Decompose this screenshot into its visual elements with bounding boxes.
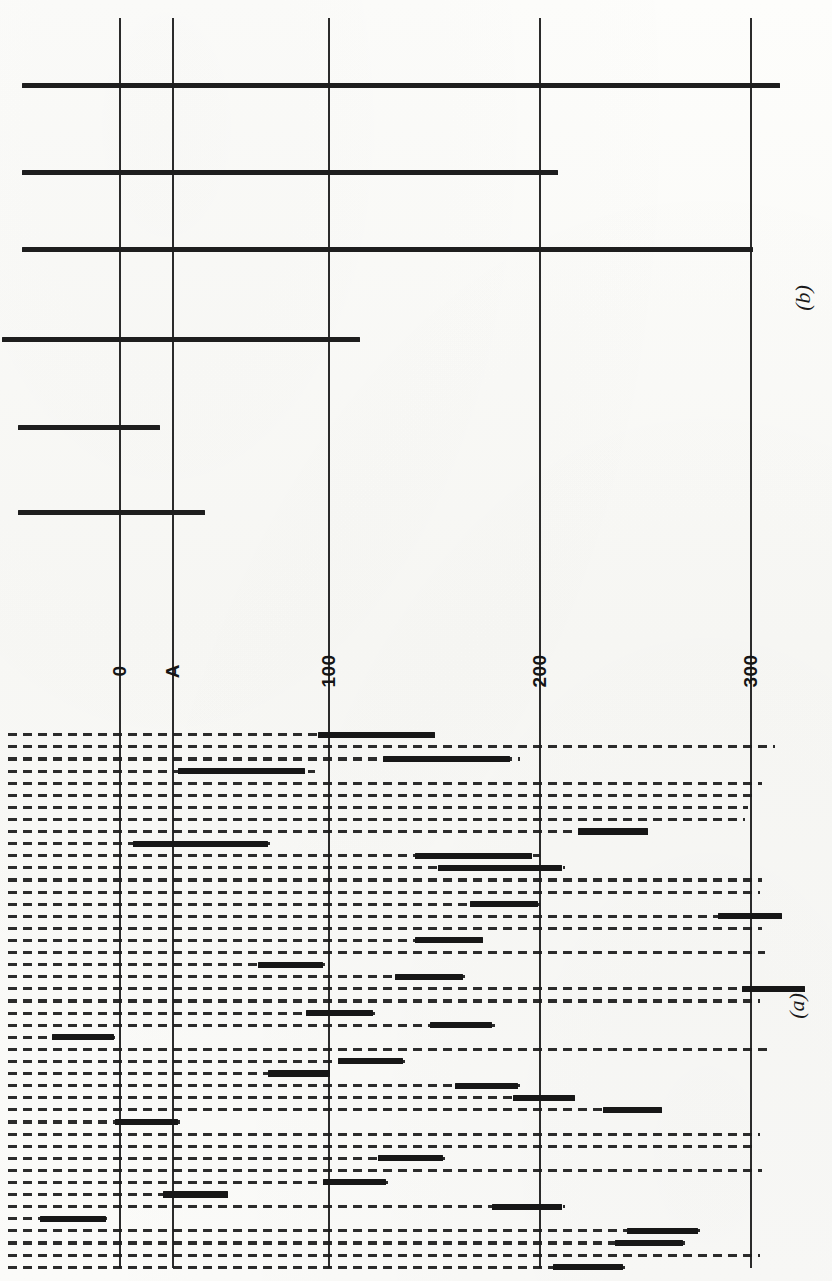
panel-a-dashed-range [8,1205,565,1208]
panel-a-dashed-range [8,1096,578,1099]
panel-a-interval-bar [415,937,483,943]
panel-caption-b: (b) [790,285,816,311]
panel-a-dashed-range [8,878,762,881]
tick-label-300: 300 [740,643,762,699]
tick-label-100: 100 [318,643,340,699]
panel-a-interval-bar [578,828,648,834]
panel-a-interval-bar [627,1228,698,1234]
panel-a-interval-bar [383,756,510,762]
tick-label-a: A [162,643,184,699]
tick-label-0: 0 [109,643,131,699]
panel-a-interval-bar [258,962,323,968]
panel-a-interval-bar [318,732,435,738]
panel-b-bar [18,510,205,515]
panel-a-interval-bar [603,1107,662,1113]
panel-a-interval-bar [378,1155,443,1161]
panel-a-dashed-range [8,1169,762,1172]
panel-b-bar [18,425,160,430]
panel-a-dashed-range [8,1266,625,1269]
panel-a-dashed-range [8,1145,758,1148]
panel-a-interval-bar [323,1179,386,1185]
panel-b-bar [22,247,753,252]
panel-a-interval-bar [395,974,463,980]
panel-b-bar [2,337,360,342]
panel-a-interval-bar [615,1240,683,1246]
panel-a-interval-bar [492,1204,562,1210]
panel-a-interval-bar [430,1022,492,1028]
panel-a-interval-bar [306,1010,373,1016]
panel-a-interval-bar [438,865,562,871]
panel-a-interval-bar [115,1119,178,1125]
panel-a-dashed-range [8,951,765,954]
panel-a-dashed-range [8,1241,685,1244]
paper-texture [0,0,832,1281]
panel-a-interval-bar [513,1095,575,1101]
panel-a-dashed-range [8,745,775,748]
panel-a-interval-bar [470,901,538,907]
panel-a-interval-bar [52,1034,114,1040]
panel-a-dashed-range [8,733,330,736]
panel-a-dashed-range [8,939,485,942]
panel-a-dashed-range [8,1133,760,1136]
panel-a-interval-bar [338,1058,403,1064]
panel-a-dashed-range [8,1229,700,1232]
panel-b-bar [22,170,558,175]
panel-a-interval-bar [415,853,532,859]
panel-a-dashed-range [8,987,805,990]
panel-a-dashed-range [8,915,780,918]
panel-a-interval-bar [718,913,782,919]
panel-a-dashed-range [8,1048,770,1051]
panel-a-dashed-range [8,1024,495,1027]
panel-a-interval-bar [455,1083,518,1089]
tick-label-200: 200 [529,643,551,699]
panel-a-dashed-range [8,999,760,1002]
panel-a-dashed-range [8,1254,760,1257]
panel-a-interval-bar [163,1191,228,1197]
panel-a-dashed-range [8,806,748,809]
panel-caption-a: (a) [784,993,810,1019]
panel-a-interval-bar [40,1216,106,1222]
panel-a-dashed-range [8,1108,665,1111]
panel-a-interval-bar [133,841,268,847]
panel-a-interval-bar [553,1264,623,1270]
panel-a-interval-bar [178,768,305,774]
panel-a-dashed-range [8,903,540,906]
figure-canvas: 0A100200300 (b)(a) [0,0,832,1281]
panel-a-dashed-range [8,794,758,797]
panel-a-dashed-range [8,891,760,894]
panel-a-interval-bar [742,986,805,992]
panel-a-dashed-range [8,818,745,821]
panel-a-dashed-range [8,782,762,785]
panel-a-dashed-range [8,830,650,833]
panel-a-dashed-range [8,1084,520,1087]
panel-a-interval-bar [268,1070,330,1076]
panel-b-bar [22,83,780,88]
panel-a-dashed-range [8,927,762,930]
